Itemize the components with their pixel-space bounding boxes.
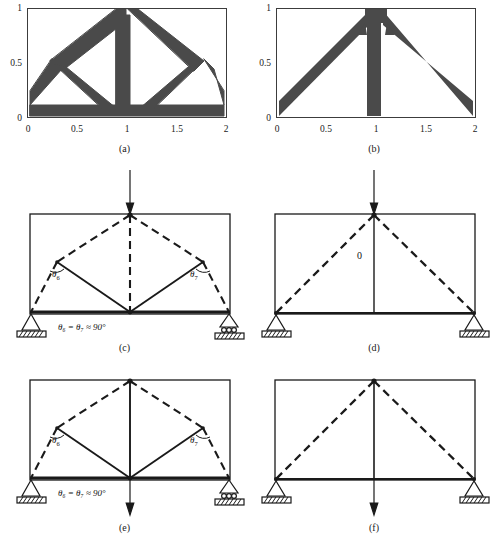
plot-a-xtick-0: 0: [26, 124, 31, 134]
plot-b-xtick-2: 2: [473, 124, 478, 134]
panel-b-caption: (b): [249, 143, 499, 154]
panel-c: θ6 θ7 θ₆ = θ₇ ≈ 90° (c): [0, 170, 249, 360]
support-pin-left-f: [262, 481, 291, 503]
panel-f-caption: (f): [249, 522, 499, 533]
load-arrow-d: [370, 170, 377, 214]
plot-a-xtick-0p5: 0.5: [71, 124, 83, 134]
panel-f: (f): [249, 360, 499, 542]
plot-b-xtick-0: 0: [275, 124, 280, 134]
panel-c-caption: (c): [0, 342, 249, 353]
plot-b-xtick-1: 1: [374, 124, 379, 134]
plot-a-xtick-2: 2: [224, 124, 229, 134]
plot-a-topology: [28, 9, 226, 117]
panel-e-caption: (e): [0, 522, 249, 533]
theta-7-label-e: θ7: [190, 435, 198, 447]
support-pin-right-d: [460, 315, 489, 337]
angle-arc-right-e: [196, 435, 210, 438]
dashed-members-f: [276, 381, 474, 479]
panel-c-diagram: [0, 170, 249, 360]
plot-a-axes: [27, 8, 227, 118]
support-roller-right-e: [215, 480, 244, 505]
load-arrow-f: [370, 479, 378, 515]
support-roller-right-c: [215, 314, 244, 339]
solid-members-e: [57, 381, 203, 478]
support-pin-right-f: [460, 481, 489, 503]
panel-d-caption: (d): [249, 342, 499, 353]
load-arrow-c: [126, 170, 133, 214]
theta-7-label-c: θ7: [190, 269, 198, 281]
plot-b-ytick-0p5: 0.5: [249, 58, 271, 68]
plot-b-ytick-1: 1: [257, 3, 271, 13]
angle-arc-right-c: [196, 269, 210, 272]
plot-b-xtick-0p5: 0.5: [320, 124, 332, 134]
panel-e: θ6 θ7 θ₆ = θ₇ ≈ 90° (e): [0, 360, 249, 542]
panel-d-diagram: [249, 170, 499, 360]
load-arrow-e: [126, 478, 134, 515]
support-pin-left-d: [262, 315, 291, 337]
support-pin-left-e: [17, 480, 46, 503]
theta-6-label-e: θ6: [52, 435, 60, 447]
ground-structure-frame-d: [275, 214, 475, 314]
plot-a-xtick-1p5: 1.5: [171, 124, 183, 134]
support-pin-left-c: [17, 314, 46, 337]
panel-d: 0 (d): [249, 170, 499, 360]
plot-a-ytick-0: 0: [8, 113, 22, 123]
theta-6-label-c: θ6: [52, 269, 60, 281]
panel-e-diagram: [0, 360, 249, 542]
angle-note-e: θ₆ = θ₇ ≈ 90°: [58, 488, 106, 498]
panel-f-diagram: [249, 360, 499, 542]
plot-a-ytick-0p5: 0.5: [0, 58, 22, 68]
plot-b-ytick-0: 0: [257, 113, 271, 123]
plot-a-xtick-1: 1: [125, 124, 130, 134]
angle-note-c: θ₆ = θ₇ ≈ 90°: [58, 322, 106, 332]
zero-force-label-d: 0: [357, 250, 362, 261]
plot-a-ytick-1: 1: [8, 3, 22, 13]
figure-container: 1 0.5 0 0 0.5 1 1.5 2 (a): [0, 0, 499, 542]
panel-a-caption: (a): [0, 143, 249, 154]
panel-a: 1 0.5 0 0 0.5 1 1.5 2 (a): [0, 0, 249, 160]
panel-b: 1 0.5 0 0 0.5 1 1.5 2 (b): [249, 0, 499, 160]
nodes-d: [274, 212, 476, 315]
plot-b-axes: [276, 8, 476, 118]
plot-b-topology: [277, 9, 475, 117]
nodes-f: [274, 378, 476, 481]
plot-b-xtick-1p5: 1.5: [420, 124, 432, 134]
dashed-members-d: [276, 215, 474, 313]
ground-structure-frame-f: [275, 380, 475, 480]
